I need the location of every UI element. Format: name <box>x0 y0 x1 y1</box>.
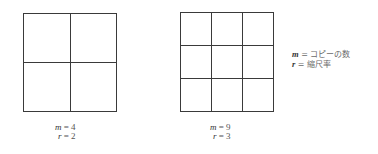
value-r: = 3 <box>217 131 231 141</box>
grid-3x3 <box>180 12 274 112</box>
legend-r: r = 縮尺率 <box>292 60 331 70</box>
grid-2x2-divider-horizontal <box>23 62 117 63</box>
legend-variable-m: m <box>292 49 299 59</box>
value-r: = 2 <box>62 131 76 141</box>
grid-3x3-divider-horizontal-1 <box>180 45 274 46</box>
grid-3x3-divider-horizontal-2 <box>180 78 274 79</box>
legend-text-r: = 縮尺率 <box>295 60 331 69</box>
grid-3x3-divider-vertical-1 <box>211 12 212 112</box>
legend-m: m = コピーの数 <box>292 50 350 60</box>
grid-3x3-divider-vertical-2 <box>242 12 243 112</box>
caption-right-r: r = 3 <box>213 132 231 141</box>
legend-text-m: = コピーの数 <box>299 50 351 59</box>
caption-left-r: r = 2 <box>58 132 76 141</box>
